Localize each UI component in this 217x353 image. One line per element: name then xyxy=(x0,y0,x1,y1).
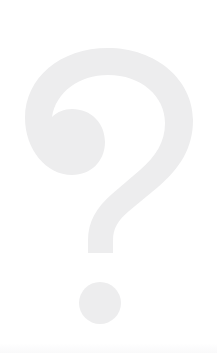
placeholder-canvas: ? xyxy=(0,0,217,353)
question-mark-body xyxy=(25,48,193,253)
question-mark-dot xyxy=(79,282,121,324)
question-mark-icon xyxy=(0,0,217,353)
